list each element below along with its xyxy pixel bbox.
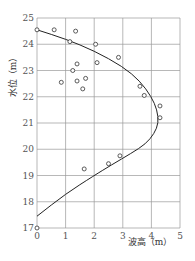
grid (37, 18, 180, 228)
data-points (35, 28, 162, 230)
chart: 171819202122232425 012345 水位（m） 波高（m） (0, 0, 195, 261)
data-point (138, 84, 142, 88)
y-tick-label: 18 (23, 197, 35, 207)
data-point (35, 28, 39, 32)
data-point (75, 62, 79, 66)
data-point (117, 55, 121, 59)
data-point (158, 116, 162, 120)
data-point (94, 42, 98, 46)
y-tick-label: 17 (23, 223, 35, 233)
data-point (59, 80, 63, 84)
data-point (142, 93, 146, 97)
y-tick-label: 24 (23, 39, 35, 49)
x-tick-label: 5 (177, 231, 183, 241)
data-point (95, 61, 99, 65)
x-tick-label: 0 (34, 231, 40, 241)
y-tick-labels: 171819202122232425 (23, 13, 35, 233)
y-tick-label: 20 (23, 144, 35, 154)
data-point (52, 28, 56, 32)
y-tick-label: 19 (23, 171, 35, 181)
data-point (82, 167, 86, 171)
x-tick-label: 3 (120, 231, 126, 241)
data-point (74, 29, 78, 33)
data-point (158, 104, 162, 108)
data-point (84, 76, 88, 80)
data-point (68, 40, 72, 44)
x-tick-label: 1 (63, 231, 69, 241)
data-point (35, 226, 39, 230)
y-axis-label: 水位（m） (7, 53, 18, 98)
x-tick-label: 2 (91, 231, 97, 241)
data-point (118, 154, 122, 158)
x-axis-label: 波高（m） (128, 236, 173, 247)
y-tick-label: 22 (23, 92, 34, 102)
data-point (71, 69, 75, 73)
y-tick-label: 23 (23, 66, 35, 76)
y-tick-label: 25 (23, 13, 35, 23)
data-point (107, 162, 111, 166)
data-point (75, 79, 79, 83)
y-tick-label: 21 (23, 118, 34, 128)
data-point (81, 87, 85, 91)
